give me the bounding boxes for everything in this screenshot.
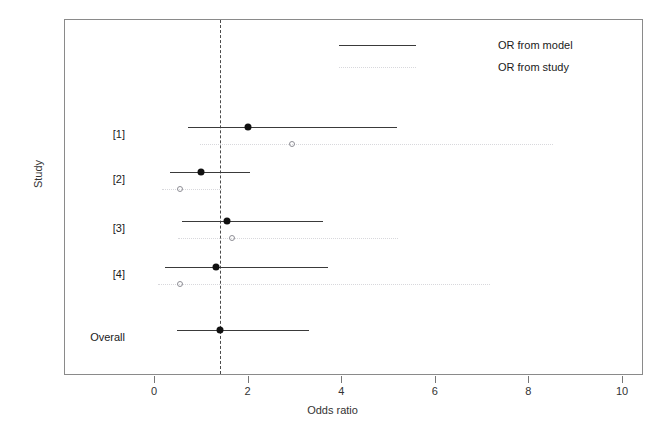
study-point-estimate bbox=[229, 235, 235, 241]
model-point-estimate bbox=[245, 124, 252, 131]
study-ci-line bbox=[200, 144, 553, 145]
x-axis-tick-label: 4 bbox=[338, 385, 344, 397]
x-axis-tick bbox=[248, 376, 249, 383]
row-label: [3] bbox=[40, 222, 125, 234]
model-ci-line bbox=[177, 330, 309, 331]
x-axis-tick-label: 2 bbox=[245, 385, 251, 397]
study-ci-line bbox=[178, 238, 398, 239]
x-axis-tick-label: 6 bbox=[432, 385, 438, 397]
model-ci-line bbox=[165, 267, 328, 268]
model-point-estimate bbox=[197, 169, 204, 176]
study-point-estimate bbox=[177, 281, 183, 287]
x-axis-tick bbox=[528, 376, 529, 383]
x-axis-tick bbox=[435, 376, 436, 383]
row-label: [4] bbox=[40, 268, 125, 280]
study-point-estimate bbox=[177, 186, 183, 192]
x-axis-tick-label: 8 bbox=[525, 385, 531, 397]
study-point-estimate bbox=[289, 141, 295, 147]
x-axis-tick-label: 0 bbox=[151, 385, 157, 397]
y-axis-title: Study bbox=[32, 144, 44, 204]
study-ci-line bbox=[158, 284, 490, 285]
legend-swatch-study bbox=[339, 67, 416, 68]
model-ci-line bbox=[188, 127, 397, 128]
legend-label-study: OR from study bbox=[498, 61, 569, 73]
x-axis-title: Odds ratio bbox=[0, 404, 665, 416]
study-ci-line bbox=[162, 189, 222, 190]
model-point-estimate bbox=[224, 218, 231, 225]
reference-line bbox=[220, 20, 221, 374]
x-axis-tick bbox=[622, 376, 623, 383]
legend-label-model: OR from model bbox=[498, 39, 573, 51]
x-axis-tick bbox=[341, 376, 342, 383]
model-ci-line bbox=[170, 172, 250, 173]
row-label: [2] bbox=[40, 173, 125, 185]
row-label: Overall bbox=[40, 331, 125, 343]
legend-swatch-model bbox=[339, 45, 416, 46]
model-point-estimate bbox=[212, 264, 219, 271]
row-label: [1] bbox=[40, 128, 125, 140]
x-axis-tick-label: 10 bbox=[616, 385, 628, 397]
model-point-estimate bbox=[216, 327, 223, 334]
x-axis-tick bbox=[154, 376, 155, 383]
forest-plot-figure: [1][2][3][4]Overall OR from modelOR from… bbox=[0, 0, 665, 435]
model-ci-line bbox=[182, 221, 323, 222]
